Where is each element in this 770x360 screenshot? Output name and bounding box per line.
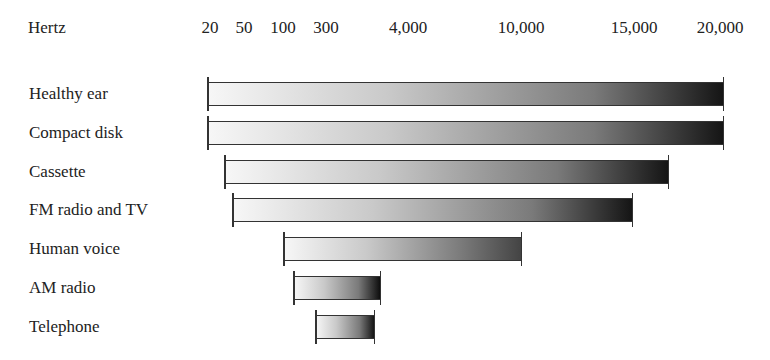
x-tick: 20,000	[697, 18, 744, 38]
range-bar-healthy-ear	[208, 82, 723, 106]
category-label: FM radio and TV	[29, 200, 148, 220]
category-label: Human voice	[29, 239, 120, 259]
x-tick: 100	[270, 18, 296, 38]
category-label: Healthy ear	[29, 84, 108, 104]
x-tick: 15,000	[611, 18, 658, 38]
x-tick: 20	[202, 18, 219, 38]
category-label: AM radio	[29, 278, 96, 298]
x-tick: 10,000	[498, 18, 545, 38]
range-bar-am-radio	[294, 276, 380, 300]
x-tick: 50	[236, 18, 253, 38]
range-bar-cassette	[225, 160, 668, 184]
x-tick: 4,000	[389, 18, 427, 38]
x-tick: 300	[313, 18, 339, 38]
range-bar-compact-disk	[208, 121, 723, 145]
category-label: Compact disk	[29, 123, 123, 143]
category-label: Cassette	[29, 162, 86, 182]
category-label: Telephone	[29, 317, 100, 337]
range-bar-human-voice	[284, 237, 521, 261]
range-bar-fm-radio-tv	[233, 198, 632, 222]
range-bar-telephone	[316, 315, 374, 339]
axis-unit-label: Hertz	[28, 18, 66, 38]
